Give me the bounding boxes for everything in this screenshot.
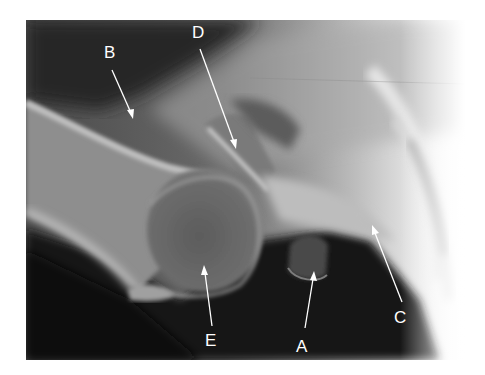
label-e: E (205, 331, 216, 350)
label-c: C (394, 308, 406, 327)
xray-image: B D C A E (0, 0, 485, 375)
label-a: A (296, 337, 308, 356)
label-b: B (104, 43, 115, 62)
label-d: D (192, 23, 204, 42)
